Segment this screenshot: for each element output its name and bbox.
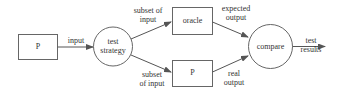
test-results-label-line1: test [295,36,327,45]
expected-output-edge-label: expected output [216,4,256,22]
program-input-label: P [18,42,58,51]
real-output-label-line1: real [218,69,250,78]
subset-top-arrow [131,22,171,39]
subset-top-label-line2: input [128,15,168,24]
expected-output-label-line2: output [216,13,256,22]
test-results-label-line2: results [295,45,327,54]
oracle-label: oracle [172,16,213,25]
subset-top-label-line1: subset of [128,6,168,15]
real-output-label-line2: output [218,78,250,87]
test-strategy-label-line1: test [94,37,132,46]
test-strategy-label: test strategy [94,37,132,55]
subset-bottom-label-line1: subset [134,70,170,79]
expected-output-arrow [213,22,249,37]
compare-label: compare [248,42,293,51]
subset-bottom-label-line2: of input [134,79,170,88]
program-under-test-label: P [172,68,213,77]
subset-bottom-edge-label: subset of input [134,70,170,88]
expected-output-label-line1: expected [216,4,256,13]
input-edge-label: input [62,36,90,45]
real-output-edge-label: real output [218,69,250,87]
subset-top-edge-label: subset of input [128,6,168,24]
test-results-edge-label: test results [295,36,327,54]
test-strategy-label-line2: strategy [94,46,132,55]
